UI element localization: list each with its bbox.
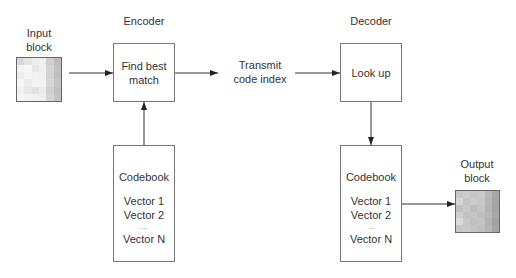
connector-arrows: [0, 0, 516, 278]
